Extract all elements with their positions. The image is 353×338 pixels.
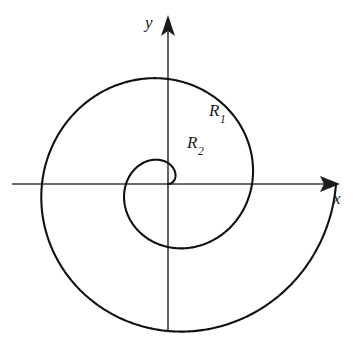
- region-label-r2: R2: [187, 134, 203, 155]
- region-label-r2-subscript: 2: [198, 145, 204, 157]
- y-axis-label: y: [145, 14, 153, 31]
- region-label-r2-base: R: [187, 133, 197, 152]
- x-axis-label: x: [333, 190, 341, 207]
- archimedean-spiral-curve: [41, 78, 336, 331]
- region-label-r1-subscript: 1: [220, 113, 226, 125]
- region-label-r1: R1: [209, 102, 225, 123]
- spiral-figure: y x R1 R2: [0, 0, 353, 338]
- region-label-r1-base: R: [209, 101, 219, 120]
- figure-canvas: [0, 0, 353, 338]
